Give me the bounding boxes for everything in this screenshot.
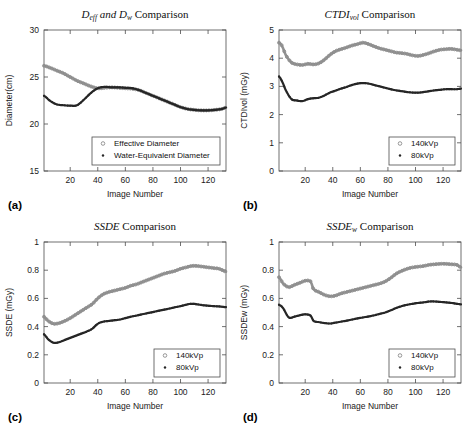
x-tick-label: 120 — [436, 387, 450, 397]
y-tick-label: 1 — [34, 237, 39, 247]
plot-area-c: SSDE Comparison2040608010012000.20.40.60… — [0, 212, 236, 425]
x-tick-label: 60 — [356, 387, 366, 397]
legend-label: 140kVp — [411, 351, 439, 360]
series-line-80kvp — [279, 301, 461, 323]
legend-label: Water-Equivalent Diameter — [114, 151, 210, 160]
y-tick-label: 0 — [269, 166, 274, 176]
legend-label: 140kVp — [176, 351, 204, 360]
plot-title: SSDEw Comparison — [326, 220, 414, 234]
x-tick-label: 40 — [328, 387, 338, 397]
x-axis-label: Image Number — [107, 401, 163, 411]
legend-label: 80kVp — [411, 151, 434, 160]
x-tick-label: 40 — [93, 175, 103, 185]
legend: Effective DiameterWater-Equivalent Diame… — [92, 137, 220, 165]
plot-title: Deff and Dw Comparison — [81, 8, 189, 22]
y-tick-label: 25 — [30, 72, 40, 82]
subplot-a-diameter-comparison: Deff and Dw Comparison204060801001201520… — [0, 0, 236, 213]
y-tick-label: 0.6 — [262, 293, 274, 303]
y-tick-label: 0.2 — [262, 350, 274, 360]
x-tick-label: 120 — [201, 175, 215, 185]
panel-letter: (b) — [243, 199, 258, 211]
y-tick-label: 0.4 — [262, 322, 274, 332]
y-tick-label: 15 — [30, 166, 40, 176]
subplot-c-ssde-comparison: SSDE Comparison2040608010012000.20.40.60… — [0, 212, 236, 425]
x-tick-label: 60 — [121, 175, 131, 185]
panel-letter: (d) — [243, 411, 258, 423]
y-tick-label: 20 — [30, 119, 40, 129]
plot-title: CTDIvol Comparison — [325, 8, 416, 22]
y-tick-label: 2 — [269, 110, 274, 120]
x-tick-label: 20 — [300, 175, 310, 185]
x-tick-label: 80 — [383, 175, 393, 185]
panel-letter: (c) — [8, 411, 22, 423]
plot-area-a: Deff and Dw Comparison204060801001201520… — [0, 0, 236, 213]
x-axis-label: Image Number — [342, 401, 398, 411]
y-tick-label: 0.8 — [262, 265, 274, 275]
y-tick-label: 0 — [34, 378, 39, 388]
legend-label: Effective Diameter — [114, 139, 180, 148]
y-tick-label: 0.8 — [27, 265, 39, 275]
y-tick-label: 3 — [269, 81, 274, 91]
legend-label: 80kVp — [411, 363, 434, 372]
x-tick-label: 60 — [121, 387, 131, 397]
plot-area-d: SSDEw Comparison2040608010012000.20.40.6… — [235, 212, 471, 425]
series-markers-80kvp — [278, 300, 461, 324]
series-line-80kvp — [44, 304, 226, 343]
x-tick-label: 100 — [408, 175, 422, 185]
legend-label: 140kVp — [411, 139, 439, 148]
y-tick-label: 0 — [269, 378, 274, 388]
x-tick-label: 80 — [148, 175, 158, 185]
subplot-b-ctdivol-comparison: CTDIvol Comparison20406080100120012345Im… — [235, 0, 471, 213]
x-tick-label: 40 — [93, 387, 103, 397]
y-axis-label: CTDIvol (mGy) — [239, 72, 249, 129]
x-tick-label: 20 — [65, 175, 75, 185]
y-tick-label: 0.2 — [27, 350, 39, 360]
series-markers-80kvp — [43, 303, 226, 344]
x-tick-label: 80 — [148, 387, 158, 397]
legend: 140kVp80kVp — [154, 349, 220, 377]
plot-area-b: CTDIvol Comparison20406080100120012345Im… — [235, 0, 471, 213]
y-axis-label: SSDEw (mGy) — [239, 285, 249, 340]
legend-label: 80kVp — [176, 363, 199, 372]
x-tick-label: 120 — [436, 175, 450, 185]
x-tick-label: 100 — [173, 387, 187, 397]
x-tick-label: 20 — [300, 387, 310, 397]
x-tick-label: 20 — [65, 387, 75, 397]
x-tick-label: 60 — [356, 175, 366, 185]
legend: 140kVp80kVp — [389, 349, 455, 377]
x-tick-label: 40 — [328, 175, 338, 185]
y-axis-label: SSDE (mGy) — [4, 288, 14, 337]
plot-title: SSDE Comparison — [94, 220, 177, 232]
series-markers-140kvp — [278, 41, 462, 66]
y-axis-label: Diameter(cm) — [4, 75, 14, 127]
y-tick-label: 30 — [30, 25, 40, 35]
figure-ct-dosimetry-comparison: Deff and Dw Comparison204060801001201520… — [0, 0, 471, 425]
y-tick-label: 5 — [269, 25, 274, 35]
legend: 140kVp80kVp — [389, 137, 455, 165]
series-line-80kvp — [279, 77, 461, 102]
subplot-d-ssdew-comparison: SSDEw Comparison2040608010012000.20.40.6… — [235, 212, 471, 425]
x-tick-label: 100 — [408, 387, 422, 397]
x-tick-label: 100 — [173, 175, 187, 185]
y-tick-label: 0.4 — [27, 322, 39, 332]
y-tick-label: 4 — [269, 53, 274, 63]
series-markers-80kvp — [278, 76, 461, 103]
y-tick-label: 1 — [269, 237, 274, 247]
panel-letter: (a) — [8, 199, 22, 211]
x-axis-label: Image Number — [342, 189, 398, 199]
y-tick-label: 1 — [269, 138, 274, 148]
x-tick-label: 120 — [201, 387, 215, 397]
x-tick-label: 80 — [383, 387, 393, 397]
x-axis-label: Image Number — [107, 189, 163, 199]
y-tick-label: 0.6 — [27, 293, 39, 303]
